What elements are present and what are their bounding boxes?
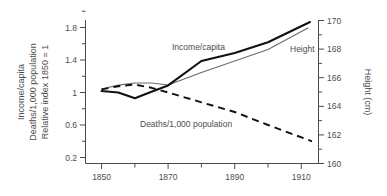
y-tick-label: 0.2 [65,153,77,163]
x-tick-label: 1850 [92,172,111,182]
y2-axis-title-text: Height (cm) [363,69,373,116]
y2-tick-label: 166 [327,73,341,83]
y2-tick-label: 162 [327,130,341,140]
left-axis-tick-labels: 1.8 1.4 1 0.6 0.2 [65,23,77,163]
y-tick-label: 1.8 [65,23,77,33]
series-line-deaths-per-1000 [102,85,312,142]
y2-tick-label: 170 [327,16,341,26]
annotation-deaths-per-1000: Deaths/1,000 population [140,119,232,129]
left-axis-ticks [80,11,86,157]
y2-tick-label: 160 [327,159,341,169]
chart-container: 1.8 1.4 1 0.6 0.2 170 168 166 164 [0,0,387,196]
y2-tick-label: 168 [327,44,341,54]
x-tick-label: 1870 [159,172,178,182]
right-axis-tick-labels: 170 168 166 164 162 160 [327,16,341,169]
y2-axis-title: Height (cm) [363,69,373,116]
x-axis-tick-labels: 1850 1870 1890 1910 [92,172,311,182]
series-line-income-per-capita [102,22,310,98]
y-axis-title: Income/capita Deaths/1,000 population Re… [16,43,50,141]
y2-tick-label: 164 [327,101,341,111]
x-axis-ticks [102,164,302,170]
annotation-income-per-capita: Income/capita [172,42,225,52]
y-axis-title-line-2: Deaths/1,000 population [28,43,38,141]
x-tick-label: 1890 [225,172,244,182]
y-axis-title-line-3: Relative index 1850 = 1 [40,45,50,139]
right-axis-ticks [319,21,325,164]
y-axis-title-line-1: Income/capita [16,64,26,120]
y-tick-label: 0.6 [65,120,77,130]
y-tick-label: 1 [72,88,77,98]
y-tick-label: 1.4 [65,55,77,65]
x-tick-label: 1910 [292,172,311,182]
line-chart: 1.8 1.4 1 0.6 0.2 170 168 166 164 [0,0,387,196]
annotation-height: Height [290,44,315,54]
